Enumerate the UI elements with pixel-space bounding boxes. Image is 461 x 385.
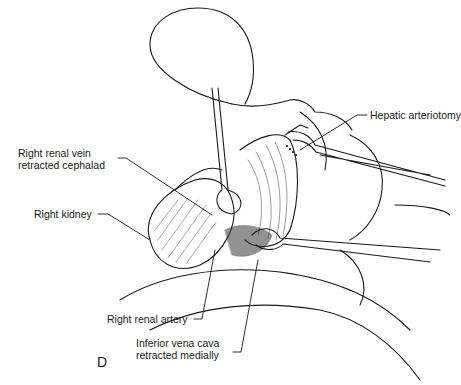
label-right-renal-vein-line1: Right renal vein <box>18 147 91 159</box>
forceps-upper <box>288 132 445 186</box>
leader-right-renal-artery <box>194 250 215 319</box>
label-right-renal-artery: Right renal artery <box>107 313 188 325</box>
kidney-outline <box>148 179 234 269</box>
leader-right-kidney <box>98 214 150 240</box>
label-hepatic-arteriotomy: Hepatic arteriotomy <box>370 109 461 121</box>
retracted-organ-outline <box>150 8 253 104</box>
label-right-renal-vein-line2: retracted cephalad <box>18 159 105 171</box>
label-ivc-line2: retracted medially <box>136 349 219 361</box>
retractor-vertical <box>212 88 241 214</box>
panel-letter: D <box>97 354 107 370</box>
leader-right-renal-vein <box>118 158 212 215</box>
retractor-lower <box>252 229 440 262</box>
liver-edge <box>232 100 352 130</box>
label-right-kidney: Right kidney <box>34 208 92 220</box>
label-ivc-line1: Inferior vena cava <box>136 337 219 349</box>
